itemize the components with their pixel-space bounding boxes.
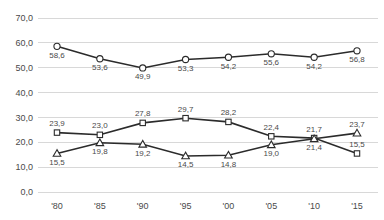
data-point-square bbox=[226, 119, 231, 124]
data-point-circle bbox=[140, 65, 146, 71]
data-point-label: 28,2 bbox=[221, 108, 237, 117]
chart-plot-area: 0,010,020,030,040,050,060,070,0'80'85'90… bbox=[0, 0, 384, 220]
data-point-label: 21,4 bbox=[306, 143, 322, 152]
data-point-square bbox=[183, 115, 188, 120]
data-point-label: 14,8 bbox=[221, 160, 237, 169]
data-point-square bbox=[54, 130, 59, 135]
data-point-label: 53,3 bbox=[178, 64, 194, 73]
data-point-label: 53,6 bbox=[92, 63, 108, 72]
y-axis-tick-label: 40,0 bbox=[15, 88, 33, 98]
data-point-triangle bbox=[353, 129, 361, 136]
data-point-label: 21,7 bbox=[306, 125, 322, 134]
data-point-circle bbox=[311, 54, 317, 60]
x-axis-tick-label: '90 bbox=[137, 201, 149, 211]
data-point-circle bbox=[268, 51, 274, 57]
data-point-circle bbox=[54, 43, 60, 49]
data-point-label: 19,8 bbox=[92, 147, 108, 156]
data-point-circle bbox=[182, 56, 188, 62]
x-axis-tick-label: '10 bbox=[308, 201, 320, 211]
x-axis-tick-label: '95 bbox=[180, 201, 192, 211]
data-point-square bbox=[269, 134, 274, 139]
y-axis-tick-label: 60,0 bbox=[15, 38, 33, 48]
data-point-label: 29,7 bbox=[178, 105, 194, 114]
y-axis-tick-label: 50,0 bbox=[15, 63, 33, 73]
data-point-square bbox=[354, 151, 359, 156]
data-point-label: 15,5 bbox=[349, 140, 365, 149]
y-axis-tick-label: 70,0 bbox=[15, 13, 33, 23]
x-axis-tick-label: '85 bbox=[94, 201, 106, 211]
data-point-label: 23,0 bbox=[92, 121, 108, 130]
data-point-label: 14,5 bbox=[178, 160, 194, 169]
data-point-label: 55,6 bbox=[263, 58, 279, 67]
y-axis-tick-label: 0,0 bbox=[20, 187, 33, 197]
data-point-label: 23,7 bbox=[349, 120, 365, 129]
data-point-square bbox=[97, 132, 102, 137]
data-point-label: 54,2 bbox=[306, 62, 322, 71]
data-point-circle bbox=[97, 56, 103, 62]
data-point-circle bbox=[225, 54, 231, 60]
data-point-label: 49,9 bbox=[135, 72, 151, 81]
data-point-label: 15,5 bbox=[49, 158, 65, 167]
y-axis-tick-label: 30,0 bbox=[15, 113, 33, 123]
line-chart: 0,010,020,030,040,050,060,070,0'80'85'90… bbox=[0, 0, 384, 220]
data-point-label: 27,8 bbox=[135, 109, 151, 118]
x-axis-tick-label: '15 bbox=[351, 201, 363, 211]
data-point-label: 19,0 bbox=[263, 149, 279, 158]
x-axis-tick-label: '05 bbox=[265, 201, 277, 211]
y-axis-tick-label: 10,0 bbox=[15, 162, 33, 172]
data-point-label: 58,6 bbox=[49, 51, 65, 60]
data-point-label: 54,2 bbox=[221, 62, 237, 71]
y-axis-tick-label: 20,0 bbox=[15, 137, 33, 147]
x-axis-tick-label: '00 bbox=[223, 201, 235, 211]
data-point-circle bbox=[354, 48, 360, 54]
x-axis-tick-label: '80 bbox=[51, 201, 63, 211]
data-point-label: 19,2 bbox=[135, 149, 151, 158]
data-point-label: 23,9 bbox=[49, 119, 65, 128]
data-point-square bbox=[140, 120, 145, 125]
data-point-label: 22,4 bbox=[263, 123, 279, 132]
data-point-label: 56,8 bbox=[349, 55, 365, 64]
